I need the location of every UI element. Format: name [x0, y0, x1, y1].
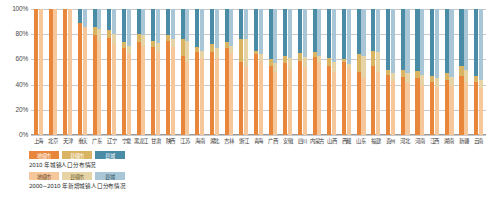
bar-segment	[303, 9, 307, 57]
stacked-bar[interactable]	[386, 9, 390, 135]
stacked-bar[interactable]	[283, 9, 287, 135]
bar-segment	[93, 35, 97, 135]
stacked-bar[interactable]	[151, 9, 155, 135]
stacked-bar[interactable]	[239, 9, 243, 135]
legend-item-prefecture-city[interactable]: 地级市	[29, 151, 59, 159]
stacked-bar[interactable]	[215, 9, 219, 135]
stacked-bar[interactable]	[122, 9, 126, 135]
stacked-bar[interactable]	[435, 9, 439, 135]
x-axis-tick-label: 广东	[90, 136, 105, 147]
legend-item-prefecture-city[interactable]: 地级市	[29, 172, 59, 180]
stacked-bar[interactable]	[78, 9, 82, 135]
bar-group	[471, 9, 486, 135]
stacked-bar[interactable]	[34, 9, 38, 135]
stacked-bar[interactable]	[327, 9, 331, 135]
stacked-bar[interactable]	[156, 9, 160, 135]
stacked-bar[interactable]	[303, 9, 307, 135]
bar-segment	[181, 39, 185, 55]
stacked-bar[interactable]	[347, 9, 351, 135]
stacked-bar[interactable]	[210, 9, 214, 135]
stacked-bar[interactable]	[401, 9, 405, 135]
bar-segment	[479, 80, 483, 89]
stacked-bar[interactable]	[298, 9, 302, 135]
stacked-bar[interactable]	[141, 9, 145, 135]
stacked-bar[interactable]	[357, 9, 361, 135]
stacked-bar[interactable]	[83, 9, 87, 135]
y-axis-tick-label: 100%	[0, 5, 28, 12]
bar-segment	[313, 57, 317, 135]
stacked-bar[interactable]	[112, 9, 116, 135]
bar-segment	[239, 9, 243, 39]
stacked-bar[interactable]	[449, 9, 453, 135]
stacked-bar[interactable]	[137, 9, 141, 135]
bar-segment	[229, 46, 233, 55]
bar-segment	[141, 9, 145, 35]
stacked-bar[interactable]	[127, 9, 131, 135]
x-axis-tick-label: 河南	[412, 136, 427, 147]
bar-segment	[342, 9, 346, 59]
stacked-bar[interactable]	[49, 9, 53, 135]
stacked-bar[interactable]	[391, 9, 395, 135]
bar-segment	[361, 78, 365, 135]
stacked-bar[interactable]	[244, 9, 248, 135]
stacked-bar[interactable]	[479, 9, 483, 135]
stacked-bar[interactable]	[229, 9, 233, 135]
stacked-bar[interactable]	[171, 9, 175, 135]
bar-group	[178, 9, 193, 135]
bar-segment	[371, 51, 375, 66]
x-axis-tick-label: 西藏	[339, 136, 354, 147]
bar-segment	[327, 58, 331, 66]
stacked-bar[interactable]	[430, 9, 434, 135]
bar-group	[104, 9, 119, 135]
x-axis-tick-label: 宁夏	[119, 136, 134, 147]
stacked-bar[interactable]	[313, 9, 317, 135]
stacked-bar[interactable]	[342, 9, 346, 135]
stacked-bar[interactable]	[332, 9, 336, 135]
stacked-bar[interactable]	[53, 9, 57, 135]
stacked-bar[interactable]	[97, 9, 101, 135]
bar-segment	[464, 9, 468, 69]
bar-segment	[171, 9, 175, 39]
stacked-bar[interactable]	[254, 9, 258, 135]
bar-group	[354, 9, 369, 135]
stacked-bar[interactable]	[420, 9, 424, 135]
bar-segment	[68, 9, 72, 135]
stacked-bar[interactable]	[269, 9, 273, 135]
bar-group	[31, 9, 46, 135]
stacked-bar[interactable]	[107, 9, 111, 135]
stacked-bar[interactable]	[273, 9, 277, 135]
stacked-bar[interactable]	[361, 9, 365, 135]
stacked-bar[interactable]	[415, 9, 419, 135]
stacked-bar[interactable]	[259, 9, 263, 135]
stacked-bar[interactable]	[93, 9, 97, 135]
stacked-bar[interactable]	[195, 9, 199, 135]
stacked-bar[interactable]	[68, 9, 72, 135]
stacked-bar[interactable]	[376, 9, 380, 135]
bar-groups	[31, 9, 486, 135]
stacked-bar[interactable]	[63, 9, 67, 135]
bar-segment	[459, 66, 463, 76]
legend-item-county-city[interactable]: 县级市	[62, 151, 92, 159]
stacked-bar[interactable]	[288, 9, 292, 135]
stacked-bar[interactable]	[464, 9, 468, 135]
legend-item-county-town[interactable]: 县城	[95, 151, 125, 159]
stacked-bar[interactable]	[166, 9, 170, 135]
bar-group	[207, 9, 222, 135]
y-axis-tick-label: 0%	[0, 131, 28, 138]
stacked-bar[interactable]	[445, 9, 449, 135]
x-axis-tick-label: 天津	[60, 136, 75, 147]
stacked-bar[interactable]	[185, 9, 189, 135]
stacked-bar[interactable]	[371, 9, 375, 135]
legend-item-county-city[interactable]: 县级市	[62, 172, 92, 180]
stacked-bar[interactable]	[317, 9, 321, 135]
stacked-bar[interactable]	[474, 9, 478, 135]
x-axis-tick-label: 湖南	[442, 136, 457, 147]
stacked-bar[interactable]	[181, 9, 185, 135]
legend-item-county-town[interactable]: 县城	[95, 172, 125, 180]
stacked-bar[interactable]	[459, 9, 463, 135]
stacked-bar[interactable]	[200, 9, 204, 135]
stacked-bar[interactable]	[225, 9, 229, 135]
x-axis-tick-label: 安徽	[280, 136, 295, 147]
stacked-bar[interactable]	[39, 9, 43, 135]
stacked-bar[interactable]	[405, 9, 409, 135]
